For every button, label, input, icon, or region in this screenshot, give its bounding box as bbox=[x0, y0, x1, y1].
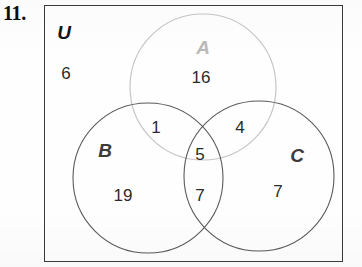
region-count-c-only: 7 bbox=[273, 183, 282, 200]
region-count-outside: 6 bbox=[61, 65, 70, 82]
venn-diagram-figure: 11. U A B C 6 16 1 4 5 7 19 7 bbox=[0, 0, 362, 267]
region-count-a-and-b: 1 bbox=[151, 119, 160, 136]
circle-set-c bbox=[184, 101, 334, 251]
set-label-a: A bbox=[196, 38, 210, 57]
region-count-b-and-c: 7 bbox=[195, 187, 204, 204]
region-count-a-only: 16 bbox=[192, 69, 211, 86]
set-label-b: B bbox=[98, 141, 112, 160]
venn-circles-layer bbox=[0, 0, 362, 267]
region-count-a-and-c: 4 bbox=[235, 119, 244, 136]
set-label-c: C bbox=[290, 146, 304, 165]
region-count-b-only: 19 bbox=[114, 187, 133, 204]
region-count-a-and-b-and-c: 5 bbox=[195, 146, 204, 163]
set-label-universe: U bbox=[57, 23, 71, 42]
circle-set-b bbox=[73, 103, 223, 253]
